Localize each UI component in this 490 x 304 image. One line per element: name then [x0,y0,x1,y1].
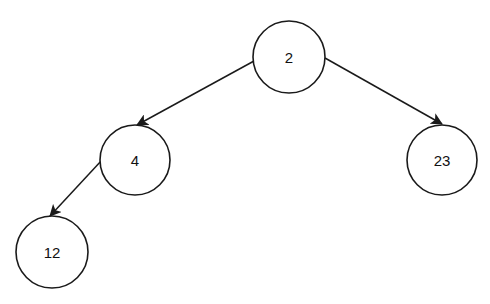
node-23: 23 [407,125,477,195]
node-label: 12 [44,244,61,261]
edge-2-to-23 [325,58,442,124]
edge-2-to-4 [137,61,254,125]
node-2: 2 [253,21,325,93]
nodes-group: 2 4 23 12 [16,21,477,288]
node-label: 4 [131,152,139,169]
tree-diagram: 2 4 23 12 [0,0,490,304]
node-4: 4 [100,125,170,195]
node-12: 12 [16,216,88,288]
node-label: 23 [434,152,451,169]
node-label: 2 [285,49,293,66]
edge-4-to-12 [50,160,102,216]
